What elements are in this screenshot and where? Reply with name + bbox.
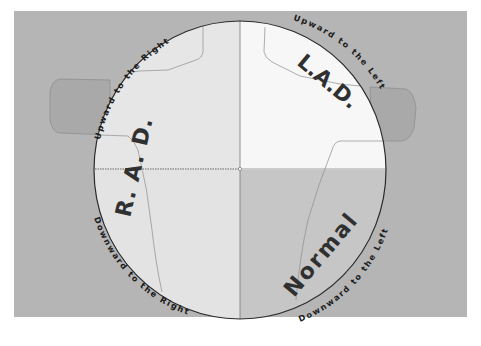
center-point xyxy=(238,167,241,170)
axis-diagram: Upward to the Right Upward to the Left D… xyxy=(0,0,481,346)
